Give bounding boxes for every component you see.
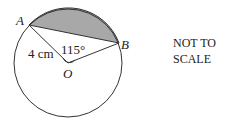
angle-arc <box>63 58 75 63</box>
note-line-2: SCALE <box>173 51 216 67</box>
radius-label: 4 cm <box>28 47 54 60</box>
angle-label: 115° <box>61 43 85 56</box>
point-B-label: B <box>121 38 129 51</box>
point-O-label: O <box>63 67 72 80</box>
not-to-scale-note: NOT TO SCALE <box>173 35 216 67</box>
note-line-1: NOT TO <box>173 35 216 51</box>
point-A-label: A <box>16 14 24 27</box>
